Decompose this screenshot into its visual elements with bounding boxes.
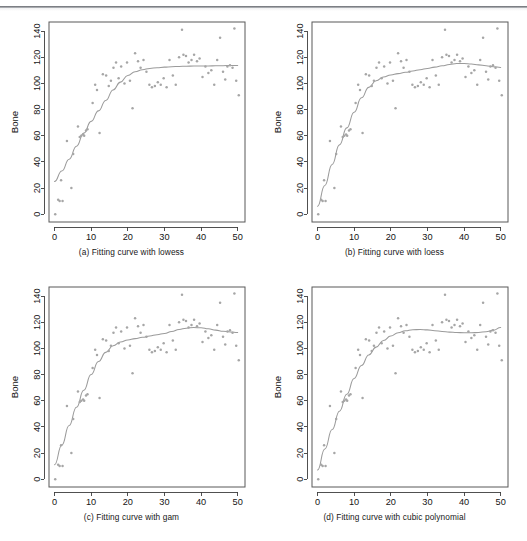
y-tick-label-a: 140 xyxy=(33,23,43,38)
caption-b: (b) Fitting curve with loess xyxy=(263,247,526,257)
y-tick-label-b: 40 xyxy=(296,157,306,167)
y-tick-label-b: 80 xyxy=(296,104,306,114)
y-axis-title-a: Bone xyxy=(9,111,20,133)
data-point xyxy=(117,342,120,345)
data-point xyxy=(354,102,357,105)
data-point xyxy=(224,78,227,81)
data-point xyxy=(112,67,115,70)
data-point xyxy=(131,107,134,110)
data-point xyxy=(317,213,320,216)
data-point xyxy=(54,478,57,481)
data-point xyxy=(115,326,118,329)
data-point xyxy=(340,125,343,128)
y-tick-label-b: 140 xyxy=(296,23,306,38)
y-tick-label-a: 20 xyxy=(33,183,43,193)
data-point xyxy=(435,339,438,342)
y-tick-label-d: 0 xyxy=(296,477,306,482)
data-point xyxy=(380,77,383,80)
data-point xyxy=(411,84,414,87)
data-point xyxy=(145,70,148,73)
data-point xyxy=(72,153,75,156)
data-point xyxy=(238,94,241,97)
data-point xyxy=(70,452,73,455)
data-point xyxy=(154,350,157,353)
data-point xyxy=(105,339,108,342)
plot-frame-d xyxy=(312,287,508,487)
data-point xyxy=(187,326,190,329)
x-tick-label-a: 20 xyxy=(123,232,133,242)
data-point xyxy=(357,84,360,87)
data-point xyxy=(162,342,165,345)
data-point xyxy=(368,339,371,342)
plot-d-content: 02040608010012014001020304050AgeBone xyxy=(272,287,509,508)
data-point xyxy=(226,65,229,68)
data-point xyxy=(178,56,181,59)
data-point xyxy=(324,200,327,203)
x-tick-label-a: 10 xyxy=(86,232,96,242)
data-point xyxy=(83,399,86,402)
data-point xyxy=(77,390,80,393)
data-point xyxy=(473,334,476,337)
data-point xyxy=(476,84,479,87)
y-tick-label-b: 0 xyxy=(296,212,306,217)
data-point xyxy=(400,60,403,63)
plot-frame-b xyxy=(312,22,508,222)
data-point xyxy=(204,330,207,333)
x-tick-label-d: 10 xyxy=(349,497,359,507)
plot-frame-c xyxy=(49,287,245,487)
data-point xyxy=(473,69,476,72)
y-tick-label-c: 60 xyxy=(33,396,43,406)
data-point xyxy=(58,200,61,203)
data-point xyxy=(172,339,175,342)
data-point xyxy=(494,67,497,70)
data-point xyxy=(210,69,213,72)
data-point xyxy=(329,405,332,408)
data-point xyxy=(201,341,204,344)
data-point xyxy=(501,359,504,362)
data-point xyxy=(231,67,234,70)
data-point xyxy=(216,324,219,327)
plot-b: 02040608010012014001020304050AgeBone xyxy=(263,11,526,243)
data-point xyxy=(168,59,171,62)
data-point xyxy=(420,81,423,84)
x-tick-label-d: 0 xyxy=(315,497,320,507)
data-point xyxy=(445,318,448,321)
data-point xyxy=(335,418,338,421)
panel-b: 02040608010012014001020304050AgeBone (b)… xyxy=(263,11,526,276)
x-tick-label-d: 40 xyxy=(459,497,469,507)
data-point xyxy=(219,36,222,39)
data-point xyxy=(333,452,336,455)
data-point xyxy=(123,82,126,85)
data-point xyxy=(323,179,326,182)
data-point xyxy=(54,213,57,216)
data-point xyxy=(444,29,447,32)
data-point xyxy=(450,326,453,329)
y-tick-label-d: 100 xyxy=(296,341,306,356)
data-point xyxy=(365,338,368,341)
panel-grid: 02040608010012014001020304050AgeBone (a)… xyxy=(0,11,527,541)
data-point xyxy=(219,301,222,304)
panel-c: 02040608010012014001020304050AgeBone (c)… xyxy=(0,276,263,541)
data-point xyxy=(61,200,64,203)
x-tick-label-d: 20 xyxy=(386,497,396,507)
data-point xyxy=(383,330,386,333)
x-tick-label-a: 0 xyxy=(52,232,57,242)
data-point xyxy=(213,84,216,87)
plot-d: 02040608010012014001020304050AgeBone xyxy=(263,276,526,508)
data-point xyxy=(394,107,397,110)
data-point xyxy=(467,65,470,68)
y-tick-label-a: 60 xyxy=(33,131,43,141)
data-point xyxy=(134,317,137,320)
data-point xyxy=(349,393,352,396)
data-point xyxy=(485,335,488,338)
data-point xyxy=(361,132,364,135)
data-point xyxy=(235,345,238,348)
data-point xyxy=(110,80,113,83)
data-point xyxy=(110,345,113,348)
data-point xyxy=(464,341,467,344)
y-tick-label-c: 80 xyxy=(33,369,43,379)
y-tick-label-d: 80 xyxy=(296,369,306,379)
x-tick-label-c: 40 xyxy=(196,497,206,507)
y-tick-label-a: 120 xyxy=(33,50,43,65)
plot-b-content: 02040608010012014001020304050AgeBone xyxy=(272,22,509,243)
